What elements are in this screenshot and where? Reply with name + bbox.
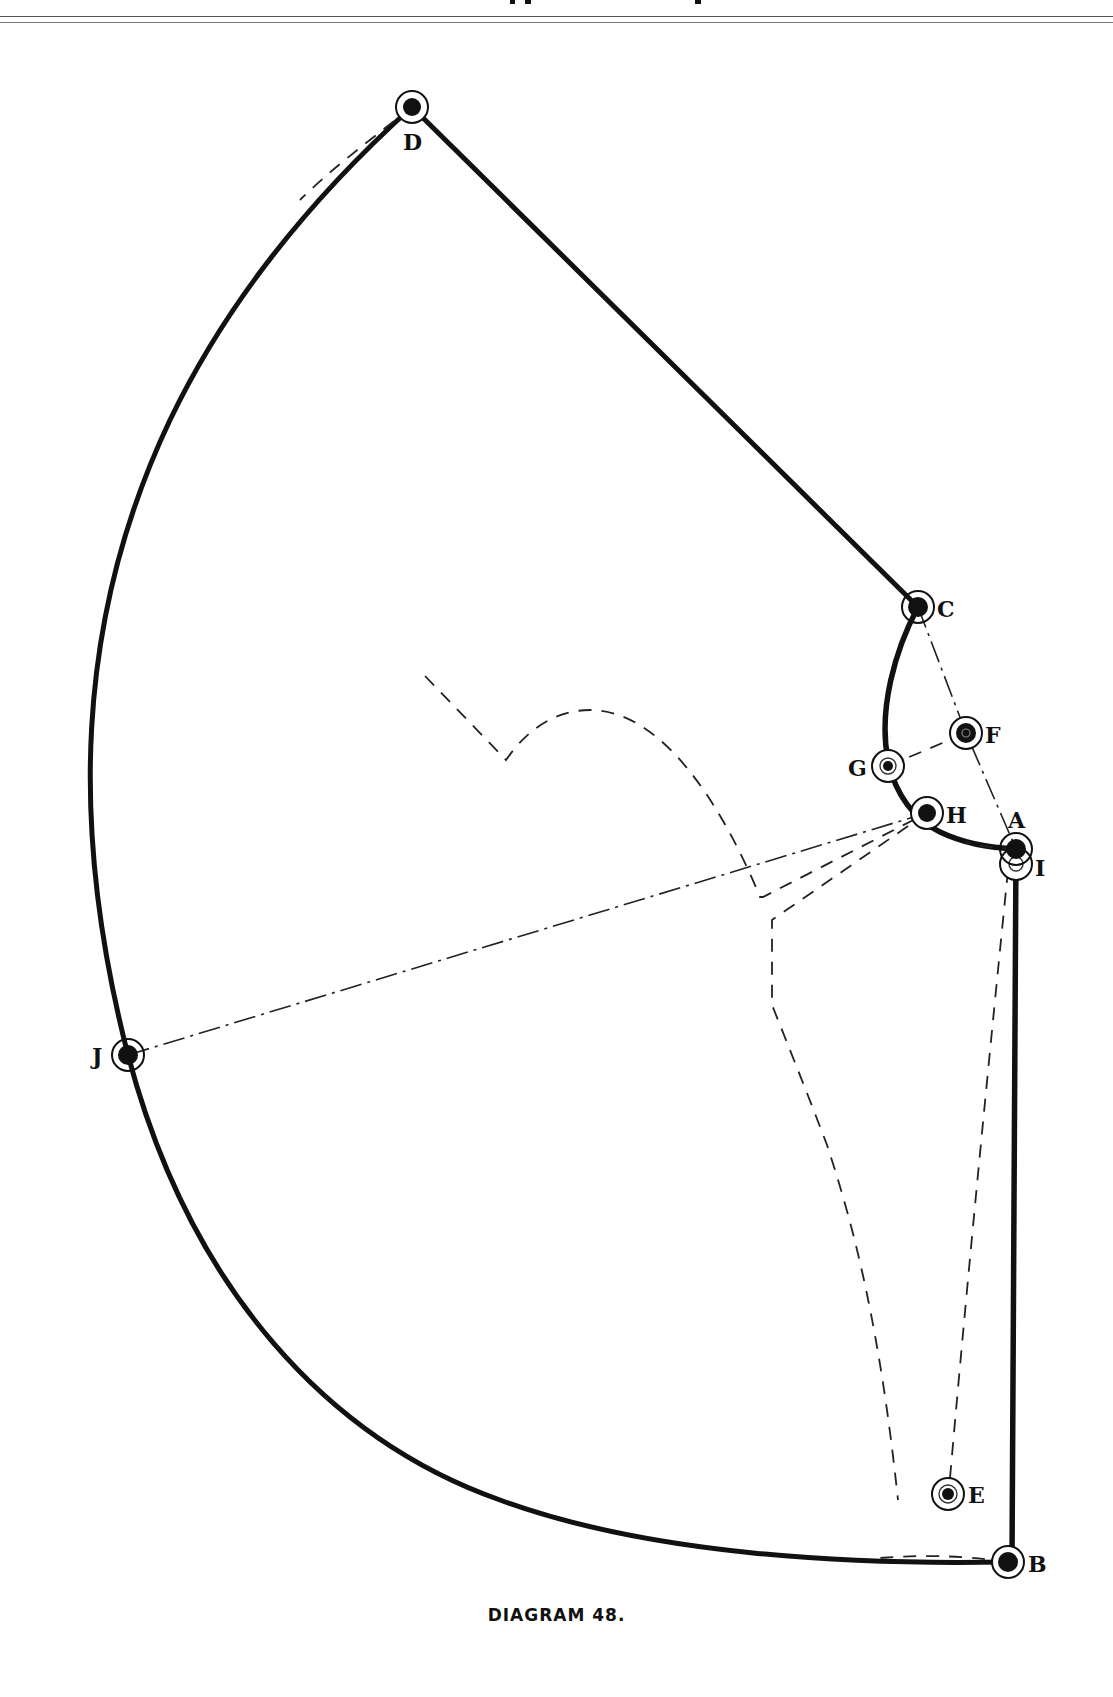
label-a: A [1007,807,1026,833]
label-c: C [937,596,955,622]
line-a-b [1012,849,1016,1560]
cut-off-header-text [510,0,701,4]
point-d-marker [396,91,428,123]
inner-panel [772,813,927,1500]
line-i-e [950,870,1008,1478]
label-f: F [985,722,1001,748]
point-markers [112,91,1032,1578]
point-e-marker [932,1478,964,1510]
arc-j-d [90,107,412,1055]
label-g: G [848,755,867,781]
label-d: D [403,129,422,155]
point-labels: D C F G H A I J E B [90,129,1047,1577]
line-j-h [128,813,927,1055]
inner-neckline [425,676,927,897]
pattern-diagram: D C F G H A I J E B [0,0,1113,1697]
point-c-marker [902,591,934,623]
diagram-caption: DIAGRAM 48. [0,1605,1113,1625]
label-j: J [90,1043,102,1069]
dashed-lines [300,107,1016,1562]
label-i: I [1035,855,1045,881]
point-b-marker [992,1546,1024,1578]
label-e: E [968,1482,985,1508]
line-d-c [412,107,918,607]
point-f-marker [950,717,982,749]
label-h: H [946,802,967,828]
point-j-marker [112,1039,144,1071]
arc-b-j [128,1055,1008,1562]
label-b: B [1028,1551,1047,1577]
point-h-marker [911,797,943,829]
point-g-marker [872,750,904,782]
dash-dot-lines [128,607,1016,1055]
